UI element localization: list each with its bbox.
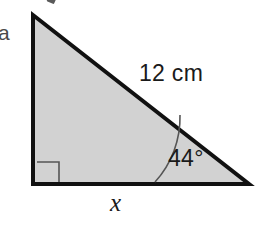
triangle-drawing (0, 0, 256, 228)
hypotenuse-length-label: 12 cm (139, 62, 203, 85)
angle-measure-label: 44° (168, 147, 204, 170)
triangle-figure: a 12 cm 44° x (0, 0, 256, 228)
item-label-a: a (0, 22, 10, 43)
triangle-shape (33, 15, 249, 184)
base-variable-label: x (110, 190, 121, 215)
